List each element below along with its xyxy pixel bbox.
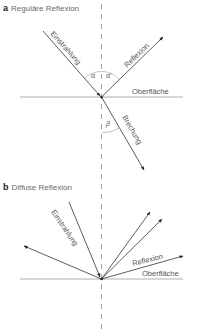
panel-a-incident-label: Einstrahlung — [49, 29, 84, 66]
panel-a-alpha-prime-label: α' — [106, 72, 111, 79]
panel-b-ray-far-left — [24, 246, 102, 279]
panel-a-refraction-label: Brechung — [120, 114, 144, 146]
panel-a-beta-label: β — [105, 120, 110, 128]
panel-a-reflection-label: Reflexion — [122, 41, 151, 69]
panel-b-reflection-label: Reflexion — [131, 252, 164, 268]
panel-a-incident-arrow — [43, 31, 100, 96]
panel-a-alpha-label: α — [91, 72, 95, 79]
panel-b-surface-label: Oberfläche — [142, 269, 179, 278]
panel-a-surface-label: Oberfläche — [132, 87, 169, 96]
panel-a-beta-arc — [102, 128, 119, 133]
optics-diagram: Einstrahlung Reflexion Oberfläche Brechu… — [0, 0, 198, 336]
panel-b-incident-label: Einstrahlung — [49, 208, 80, 248]
